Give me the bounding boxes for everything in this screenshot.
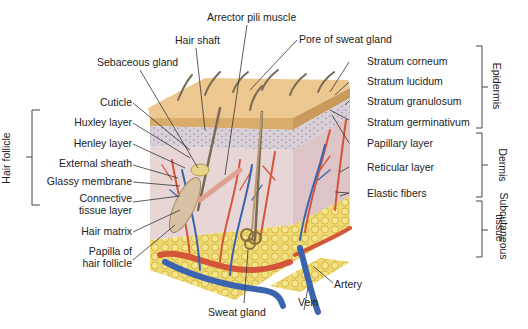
label-external-sheath: External sheath [59,157,132,169]
label-sweat-gland: Sweat gland [208,306,266,318]
label-hair-matrix: Hair matrix [81,225,132,237]
group-label-dermis: Dermis [497,148,509,181]
label-stratum-corneum: Stratum corneum [367,55,448,67]
label-stratum-lucidum: Stratum lucidum [367,75,443,87]
sebaceous-gland-shape [191,164,209,176]
label-pore-of-sweat-gland: Pore of sweat gland [299,33,392,45]
label-reticular-layer: Reticular layer [367,161,434,173]
label-hair-shaft: Hair shaft [175,34,220,46]
label-papilla-2: hair follicle [82,257,132,269]
group-label-hair-follicle: Hair follicle [0,132,12,183]
label-stratum-granulosum: Stratum granulosum [367,95,462,107]
label-sebaceous-gland: Sebaceous gland [97,56,178,68]
label-papilla-1: Papilla of [89,245,132,257]
label-connective-tissue-layer-2: tissue layer [79,204,132,216]
label-papillary-layer: Papillary layer [367,137,433,149]
group-label-subcutaneous-2: tissue [494,214,506,241]
label-artery: Artery [334,278,362,290]
label-stratum-germinativum: Stratum germinativum [367,116,470,128]
label-arrector-pili-muscle: Arrector pili muscle [207,11,296,23]
label-henley-layer: Henley layer [74,137,132,149]
label-glassy-membrane: Glassy membrane [47,175,132,187]
bracket-hair-follicle [26,110,40,205]
bracket-subcutaneous [476,201,488,257]
label-huxley-layer: Huxley layer [74,116,132,128]
label-elastic-fibers: Elastic fibers [367,187,427,199]
bracket-dermis [476,133,488,197]
label-connective-tissue-layer-1: Connective [79,192,132,204]
label-vein: Vein [298,296,318,308]
label-cuticle: Cuticle [100,96,132,108]
skin-diagram: Arrector pili muscle Hair shaft Pore of … [0,0,528,329]
bracket-epidermis [476,46,488,128]
group-label-epidermis: Epidermis [491,63,503,110]
